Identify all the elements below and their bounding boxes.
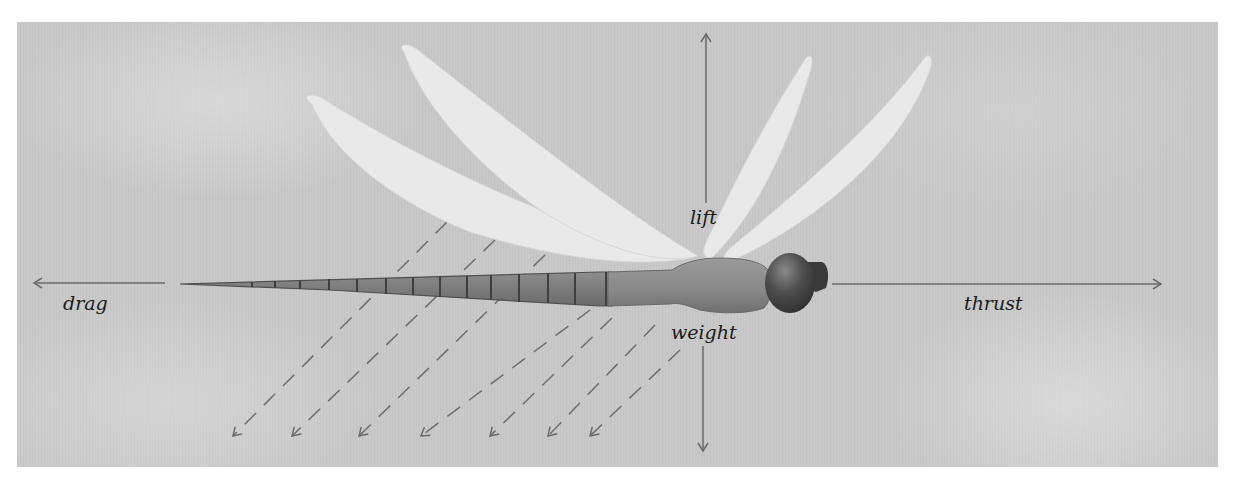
head: [765, 253, 828, 313]
airflow-arrow-2: [292, 240, 495, 436]
airflow-arrow-1: [233, 222, 447, 436]
abdomen: [180, 272, 612, 306]
airflow-arrow-5: [490, 318, 612, 436]
airflow-arrow-6: [548, 325, 655, 436]
diagram-stage: lift weight drag thrust: [0, 0, 1244, 478]
thrust-label: thrust: [964, 294, 1023, 313]
weight-label: weight: [671, 323, 737, 342]
lift-label: lift: [690, 208, 717, 227]
head-eye: [765, 253, 815, 313]
dragonfly-illustration: [0, 0, 1244, 478]
drag-label: drag: [63, 294, 108, 313]
airflow-arrow-4: [421, 310, 590, 436]
thorax: [608, 258, 771, 313]
airflow-arrow-7: [590, 350, 680, 436]
wings: [307, 45, 932, 262]
